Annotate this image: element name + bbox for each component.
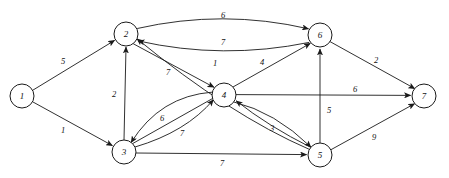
edge-4-7 (236, 95, 411, 96)
node-2-label: 2 (124, 29, 129, 39)
node-6[interactable]: 6 (308, 23, 332, 47)
graph-canvas: 5 1 6 7 2 7 1 4 6 7 6 5 3 7 2 9 1 2 (0, 0, 449, 178)
edge-weight-3-2: 2 (112, 89, 117, 99)
node-5-label: 5 (318, 150, 323, 160)
node-1[interactable]: 1 (10, 84, 34, 108)
graph-diagram: 5 1 6 7 2 7 1 4 6 7 6 5 3 7 2 9 1 2 (0, 0, 449, 178)
edge-weight-1-2: 5 (61, 56, 65, 66)
edge-1-2 (32, 40, 114, 90)
edge-5-7 (331, 104, 415, 150)
node-4-label: 4 (222, 90, 227, 100)
edge-weight-5-4: 3 (269, 123, 274, 133)
node-1-label: 1 (20, 91, 25, 101)
edge-weight-6-2: 7 (221, 37, 226, 47)
edge-1-3 (33, 102, 113, 146)
node-4[interactable]: 4 (212, 83, 236, 107)
edge-3-2 (124, 47, 126, 140)
edge-weight-6-7: 2 (374, 55, 379, 65)
edge-weight-1-3: 1 (61, 125, 65, 135)
edge-4-3 (131, 92, 213, 142)
edge-weight-4-7: 6 (353, 84, 358, 94)
node-5[interactable]: 5 (308, 143, 332, 167)
edge-weight-5-6: 5 (327, 105, 331, 115)
edge-3-4 (135, 100, 213, 147)
edge-6-7 (330, 42, 415, 89)
edge-3-5 (136, 153, 307, 155)
edge-weight-3-4: 7 (180, 128, 185, 138)
edge-weight-4-3: 6 (160, 113, 165, 123)
node-3[interactable]: 3 (112, 140, 136, 164)
edge-2-6 (137, 19, 308, 29)
node-6-label: 6 (318, 30, 323, 40)
edge-weight-3-6: 4 (260, 57, 265, 67)
node-3-label: 3 (121, 147, 127, 157)
node-7-label: 7 (422, 91, 427, 101)
edge-weight-5-7: 9 (372, 132, 377, 142)
node-2[interactable]: 2 (114, 22, 138, 46)
node-7[interactable]: 7 (412, 84, 436, 108)
edge-weight-3-5: 7 (220, 158, 225, 168)
edge-weight-2-4: 7 (166, 67, 171, 77)
edge-weight-5-2: 1 (213, 58, 217, 68)
